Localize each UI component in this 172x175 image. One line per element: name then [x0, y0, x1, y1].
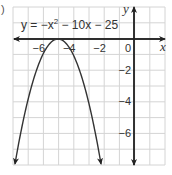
- x-tick-label: −4: [63, 42, 76, 54]
- parabola-graph: ) −6−4−20−2−4−6 y = −x2 − 10x − 25 y x: [0, 0, 172, 175]
- y-tick-label: −2: [118, 64, 131, 76]
- tick-labels: −6−4−20−2−4−6: [33, 42, 132, 139]
- x-tick-label: −2: [93, 42, 106, 54]
- x-tick-label: −6: [33, 42, 46, 54]
- x-axis-label: x: [159, 39, 166, 54]
- y-axis-label: y: [121, 1, 129, 16]
- part-label: ): [1, 3, 5, 15]
- x-tick-label: 0: [125, 42, 131, 54]
- equation-label: y = −x2 − 10x − 25: [21, 17, 119, 32]
- y-tick-label: −4: [118, 95, 131, 107]
- y-tick-label: −6: [118, 127, 131, 139]
